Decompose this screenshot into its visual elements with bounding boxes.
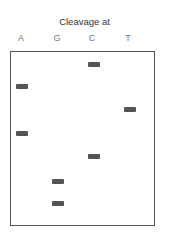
band-t-3 [124, 107, 136, 112]
band-g-7 [52, 201, 64, 206]
lane-label-c: C [82, 33, 102, 43]
band-a-4 [16, 131, 28, 136]
diagram-title: Cleavage at [0, 16, 169, 27]
lane-label-g: G [47, 33, 67, 43]
band-a-2 [16, 84, 28, 89]
lane-label-t: T [118, 33, 138, 43]
band-c-1 [88, 62, 100, 67]
lane-label-a: A [11, 33, 31, 43]
band-c-5 [88, 154, 100, 159]
band-g-6 [52, 179, 64, 184]
gel-frame [10, 51, 155, 226]
